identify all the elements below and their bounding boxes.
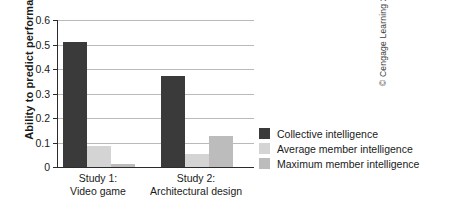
chart-legend: Collective intelligenceAverage member in… [259,126,419,171]
y-axis-tick-label: 0.4 [35,63,50,75]
legend-swatch [259,143,270,154]
bar [185,154,209,167]
category-label-line: Architectural design [121,185,271,198]
bar [161,76,185,167]
y-axis-tick-label: 0.2 [35,112,50,124]
grid-line [58,94,254,95]
y-axis-tick-mark [53,20,58,21]
bar [209,136,233,167]
legend-swatch [259,158,270,169]
y-axis-tick-mark [53,45,58,46]
legend-label: Collective intelligence [277,128,378,140]
y-axis-tick-mark [53,118,58,119]
bar [63,42,87,167]
bar-chart-figure: Ability to predict performance 00.10.20.… [0,0,450,217]
legend-label: Maximum member intelligence [277,158,419,170]
y-axis-tick-label: 0.1 [35,137,50,149]
y-axis-tick-label: 0.6 [35,14,50,26]
bar [87,146,111,167]
bar [111,164,135,167]
y-axis-title: Ability to predict performance [23,0,35,145]
y-axis-tick-label: 0.3 [35,88,50,100]
legend-item: Maximum member intelligence [259,156,419,171]
grid-line [58,20,254,21]
grid-line [58,69,254,70]
grid-line [58,45,254,46]
legend-swatch [259,128,270,139]
legend-label: Average member intelligence [277,143,413,155]
grid-line [58,118,254,119]
y-axis-tick-mark [53,143,58,144]
plot-area: 00.10.20.30.40.50.6 [57,20,254,168]
y-axis-tick-mark [53,167,58,168]
copyright-notice: © Cengage Learning 2013 [378,0,388,86]
legend-item: Collective intelligence [259,126,419,141]
category-label: Study 2:Architectural design [121,172,271,198]
legend-item: Average member intelligence [259,141,419,156]
y-axis-tick-mark [53,69,58,70]
category-label-line: Study 2: [121,172,271,185]
y-axis-tick-label: 0.5 [35,39,50,51]
y-axis-tick-mark [53,94,58,95]
